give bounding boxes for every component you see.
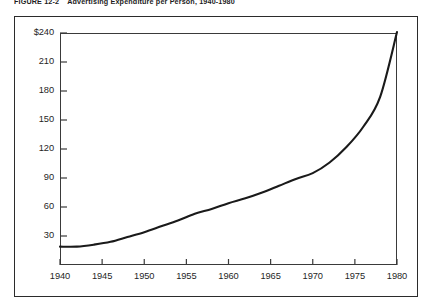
y-axis-tick-label: 180 <box>8 85 54 96</box>
y-axis-tick-label: 90 <box>8 172 54 183</box>
data-series-line <box>60 32 397 247</box>
y-axis-tick-marks <box>60 33 67 236</box>
y-axis-tick-label: $240 <box>8 27 54 38</box>
x-axis-tick-label: 1960 <box>209 270 249 282</box>
y-axis-tick-label: 120 <box>8 143 54 154</box>
x-axis-tick-label: 1965 <box>251 270 291 282</box>
x-axis-tick-marks <box>60 259 397 265</box>
figure-container: FIGURE 12-2Advertising Expenditure per P… <box>0 0 432 308</box>
chart-svg <box>0 0 432 308</box>
y-axis-tick-label: 60 <box>8 201 54 212</box>
x-axis-tick-label: 1970 <box>293 270 333 282</box>
y-axis-tick-label: 210 <box>8 56 54 67</box>
y-axis-tick-label: 150 <box>8 114 54 125</box>
x-axis-tick-label: 1980 <box>377 270 417 282</box>
y-axis-tick-label: 30 <box>8 230 54 241</box>
x-axis-tick-label: 1955 <box>166 270 206 282</box>
x-axis-tick-label: 1975 <box>335 270 375 282</box>
x-axis-tick-label: 1940 <box>40 270 80 282</box>
x-axis-tick-label: 1945 <box>82 270 122 282</box>
x-axis-tick-label: 1950 <box>124 270 164 282</box>
